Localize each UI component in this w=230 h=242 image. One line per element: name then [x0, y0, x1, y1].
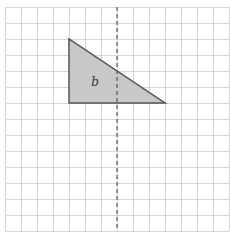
- reflection-diagram: b: [0, 0, 230, 242]
- triangle-label: b: [91, 75, 99, 89]
